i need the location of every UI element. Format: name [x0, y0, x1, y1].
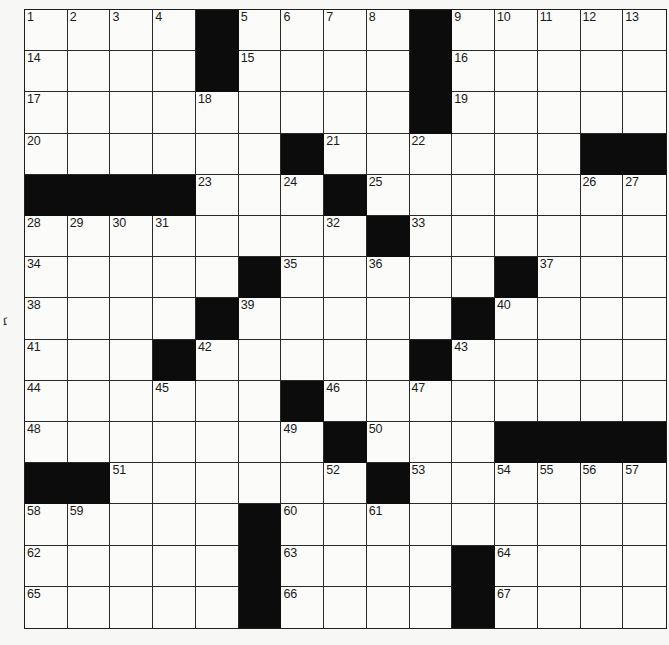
- answer-cell[interactable]: [623, 381, 666, 422]
- answer-cell[interactable]: 60: [281, 504, 324, 545]
- answer-cell[interactable]: 51: [110, 463, 153, 504]
- answer-cell[interactable]: [110, 92, 153, 133]
- answer-cell[interactable]: 37: [538, 257, 581, 298]
- answer-cell[interactable]: [110, 504, 153, 545]
- answer-cell[interactable]: 43: [452, 340, 495, 381]
- answer-cell[interactable]: 6: [281, 10, 324, 51]
- answer-cell[interactable]: [623, 92, 666, 133]
- answer-cell[interactable]: [538, 381, 581, 422]
- answer-cell[interactable]: [324, 504, 367, 545]
- answer-cell[interactable]: [324, 340, 367, 381]
- answer-cell[interactable]: [281, 463, 324, 504]
- answer-cell[interactable]: [623, 504, 666, 545]
- answer-cell[interactable]: [281, 92, 324, 133]
- answer-cell[interactable]: [110, 546, 153, 587]
- answer-cell[interactable]: [581, 381, 624, 422]
- answer-cell[interactable]: [196, 134, 239, 175]
- answer-cell[interactable]: [367, 92, 410, 133]
- answer-cell[interactable]: 48: [25, 422, 68, 463]
- answer-cell[interactable]: 45: [153, 381, 196, 422]
- answer-cell[interactable]: [110, 422, 153, 463]
- answer-cell[interactable]: [68, 340, 111, 381]
- answer-cell[interactable]: [410, 257, 453, 298]
- answer-cell[interactable]: [452, 216, 495, 257]
- answer-cell[interactable]: [495, 175, 538, 216]
- answer-cell[interactable]: 16: [452, 51, 495, 92]
- answer-cell[interactable]: [324, 92, 367, 133]
- answer-cell[interactable]: [581, 546, 624, 587]
- answer-cell[interactable]: [196, 463, 239, 504]
- answer-cell[interactable]: [410, 298, 453, 339]
- answer-cell[interactable]: [538, 504, 581, 545]
- answer-cell[interactable]: [495, 92, 538, 133]
- answer-cell[interactable]: 17: [25, 92, 68, 133]
- answer-cell[interactable]: [239, 422, 282, 463]
- answer-cell[interactable]: 56: [581, 463, 624, 504]
- answer-cell[interactable]: 21: [324, 134, 367, 175]
- answer-cell[interactable]: 11: [538, 10, 581, 51]
- answer-cell[interactable]: [239, 92, 282, 133]
- answer-cell[interactable]: [153, 51, 196, 92]
- answer-cell[interactable]: [239, 134, 282, 175]
- answer-cell[interactable]: [581, 51, 624, 92]
- answer-cell[interactable]: [281, 340, 324, 381]
- answer-cell[interactable]: [538, 546, 581, 587]
- answer-cell[interactable]: 53: [410, 463, 453, 504]
- answer-cell[interactable]: [324, 257, 367, 298]
- answer-cell[interactable]: 62: [25, 546, 68, 587]
- answer-cell[interactable]: 47: [410, 381, 453, 422]
- answer-cell[interactable]: [110, 298, 153, 339]
- answer-cell[interactable]: 44: [25, 381, 68, 422]
- answer-cell[interactable]: [495, 381, 538, 422]
- answer-cell[interactable]: 18: [196, 92, 239, 133]
- answer-cell[interactable]: 41: [25, 340, 68, 381]
- answer-cell[interactable]: [452, 422, 495, 463]
- answer-cell[interactable]: [196, 381, 239, 422]
- answer-cell[interactable]: [452, 504, 495, 545]
- answer-cell[interactable]: 34: [25, 257, 68, 298]
- answer-cell[interactable]: [153, 463, 196, 504]
- answer-cell[interactable]: [581, 216, 624, 257]
- answer-cell[interactable]: 26: [581, 175, 624, 216]
- answer-cell[interactable]: 38: [25, 298, 68, 339]
- answer-cell[interactable]: [538, 340, 581, 381]
- answer-cell[interactable]: 61: [367, 504, 410, 545]
- answer-cell[interactable]: [452, 257, 495, 298]
- answer-cell[interactable]: [68, 422, 111, 463]
- answer-cell[interactable]: 4: [153, 10, 196, 51]
- answer-cell[interactable]: [367, 381, 410, 422]
- answer-cell[interactable]: 33: [410, 216, 453, 257]
- answer-cell[interactable]: 46: [324, 381, 367, 422]
- answer-cell[interactable]: [110, 587, 153, 628]
- answer-cell[interactable]: [367, 546, 410, 587]
- answer-cell[interactable]: [623, 546, 666, 587]
- answer-cell[interactable]: [581, 340, 624, 381]
- answer-cell[interactable]: [153, 134, 196, 175]
- answer-cell[interactable]: [153, 587, 196, 628]
- answer-cell[interactable]: [196, 257, 239, 298]
- answer-cell[interactable]: [452, 134, 495, 175]
- answer-cell[interactable]: [581, 504, 624, 545]
- answer-cell[interactable]: [68, 51, 111, 92]
- answer-cell[interactable]: [581, 587, 624, 628]
- answer-cell[interactable]: [68, 546, 111, 587]
- answer-cell[interactable]: 66: [281, 587, 324, 628]
- answer-cell[interactable]: 2: [68, 10, 111, 51]
- answer-cell[interactable]: [410, 587, 453, 628]
- answer-cell[interactable]: 29: [68, 216, 111, 257]
- answer-cell[interactable]: 58: [25, 504, 68, 545]
- answer-cell[interactable]: [538, 92, 581, 133]
- answer-cell[interactable]: 40: [495, 298, 538, 339]
- answer-cell[interactable]: 7: [324, 10, 367, 51]
- answer-cell[interactable]: [452, 381, 495, 422]
- answer-cell[interactable]: [68, 587, 111, 628]
- answer-cell[interactable]: 24: [281, 175, 324, 216]
- answer-cell[interactable]: 54: [495, 463, 538, 504]
- answer-cell[interactable]: [68, 92, 111, 133]
- answer-cell[interactable]: 42: [196, 340, 239, 381]
- answer-cell[interactable]: 36: [367, 257, 410, 298]
- answer-cell[interactable]: [239, 216, 282, 257]
- answer-cell[interactable]: [110, 257, 153, 298]
- answer-cell[interactable]: 52: [324, 463, 367, 504]
- answer-cell[interactable]: 20: [25, 134, 68, 175]
